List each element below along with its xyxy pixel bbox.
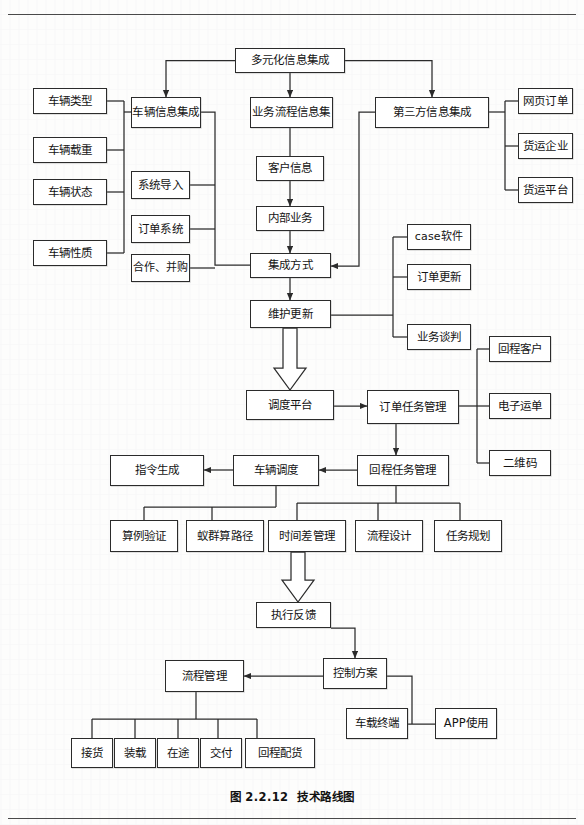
node-vehicle-load[interactable]: 车辆载重 — [33, 137, 107, 163]
node-root[interactable]: 多元化信息集成 — [235, 48, 345, 73]
node-business-negotiation[interactable]: 业务谈判 — [407, 324, 471, 350]
node-electronic-waybill[interactable]: 电子运单 — [489, 393, 551, 419]
node-loading[interactable]: 装载 — [114, 738, 156, 768]
node-pickup[interactable]: 接货 — [71, 738, 113, 768]
node-qr-code[interactable]: 二维码 — [489, 450, 551, 476]
node-execution-feedback[interactable]: 执行反馈 — [256, 602, 331, 628]
node-delivery[interactable]: 交付 — [200, 738, 242, 768]
node-task-planning[interactable]: 任务规划 — [434, 520, 502, 552]
node-third-party-info[interactable]: 第三方信息集成 — [375, 97, 489, 128]
node-instruction-generation[interactable]: 指令生成 — [110, 455, 204, 486]
node-order-update[interactable]: 订单更新 — [407, 264, 471, 290]
node-web-order[interactable]: 网页订单 — [518, 88, 573, 114]
node-process-management[interactable]: 流程管理 — [165, 660, 244, 692]
node-control-scheme[interactable]: 控制方案 — [323, 658, 387, 689]
node-vehicle-nature[interactable]: 车辆性质 — [33, 240, 107, 266]
figure-caption: 图 2.2.12技术路线图 — [0, 788, 584, 804]
node-integration-method[interactable]: 集成方式 — [250, 253, 331, 278]
node-system-import[interactable]: 系统导入 — [131, 171, 190, 199]
node-cooperation-merger[interactable]: 合作、并购 — [131, 254, 190, 282]
node-order-task-management[interactable]: 订单任务管理 — [367, 390, 459, 424]
node-case-software[interactable]: case软件 — [407, 224, 471, 250]
node-vehicle-type[interactable]: 车辆类型 — [33, 88, 107, 114]
figure-caption-number: 图 2.2.12 — [230, 790, 289, 804]
figure-page: 多元化信息集成 车辆信息集成 业务流程信息集 第三方信息集成 车辆类型 车辆载重… — [0, 0, 584, 825]
node-app-usage[interactable]: APP使用 — [435, 708, 497, 739]
node-vehicle-info-integration[interactable]: 车辆信息集成 — [131, 97, 201, 128]
node-maintenance-update[interactable]: 维护更新 — [250, 300, 331, 328]
node-return-distribution[interactable]: 回程配货 — [245, 738, 315, 768]
node-vehicle-status[interactable]: 车辆状态 — [33, 179, 107, 205]
node-dispatch-platform[interactable]: 调度平台 — [246, 390, 334, 420]
node-order-system[interactable]: 订单系统 — [131, 215, 190, 243]
node-case-verification[interactable]: 算例验证 — [110, 520, 178, 552]
node-freight-enterprise[interactable]: 货运企业 — [518, 133, 573, 159]
node-vehicle-terminal[interactable]: 车载终端 — [346, 708, 408, 739]
node-return-customer[interactable]: 回程客户 — [489, 336, 551, 362]
node-time-difference-management[interactable]: 时间差管理 — [268, 520, 346, 552]
node-return-task-management[interactable]: 回程任务管理 — [357, 455, 449, 486]
node-customer-info[interactable]: 客户信息 — [256, 156, 324, 181]
node-freight-platform[interactable]: 货运平台 — [518, 177, 573, 203]
node-process-design[interactable]: 流程设计 — [355, 520, 423, 552]
node-internal-business[interactable]: 内部业务 — [256, 206, 324, 231]
node-vehicle-dispatch[interactable]: 车辆调度 — [233, 455, 319, 486]
node-business-process-info[interactable]: 业务流程信息集 — [250, 97, 333, 128]
node-in-transit[interactable]: 在途 — [157, 738, 199, 768]
figure-caption-title: 技术路线图 — [297, 790, 354, 804]
node-ant-colony-route[interactable]: 蚁群算路径 — [186, 520, 264, 552]
